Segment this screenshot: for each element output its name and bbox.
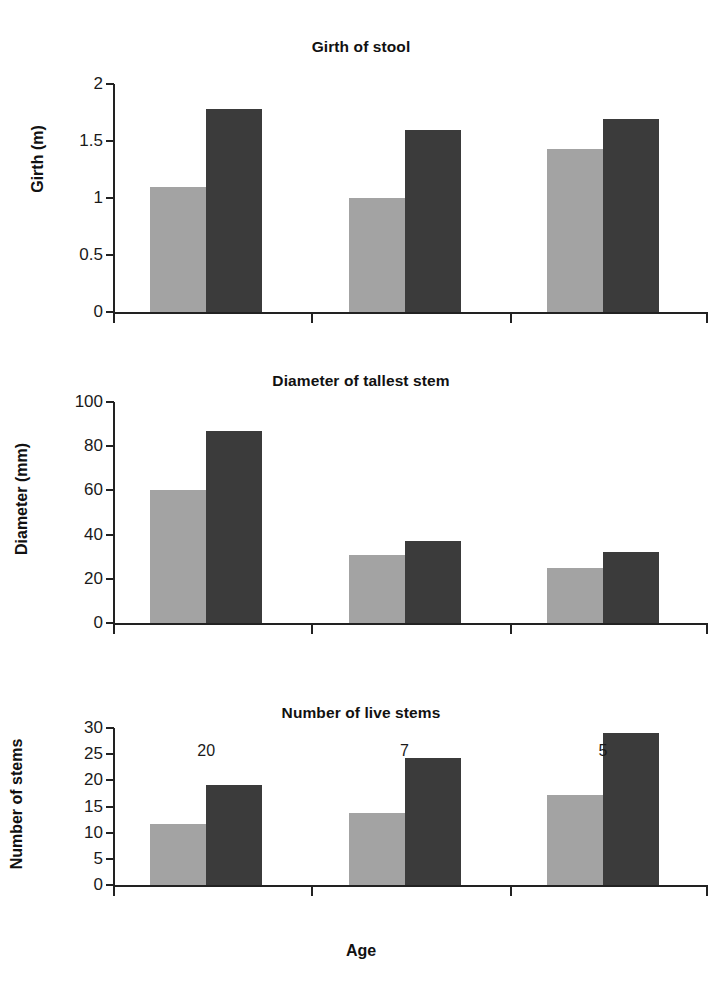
y-axis-tick bbox=[106, 83, 114, 85]
y-axis-tick-label: 25 bbox=[84, 744, 103, 764]
bar-light-20 bbox=[150, 490, 206, 623]
y-axis-tick bbox=[106, 753, 114, 755]
bar-dark-20 bbox=[206, 431, 262, 623]
x-axis-tick bbox=[113, 886, 115, 896]
y-axis-tick-label: 1.5 bbox=[79, 131, 103, 151]
bar-light-20 bbox=[150, 187, 206, 312]
y-axis-tick-label: 100 bbox=[75, 392, 103, 412]
y-axis-label: Number of stems bbox=[8, 704, 26, 904]
y-axis-tick bbox=[106, 832, 114, 834]
bar-dark-5 bbox=[603, 552, 659, 623]
y-axis-tick bbox=[106, 578, 114, 580]
bar-light-7 bbox=[349, 198, 405, 312]
x-axis-tick bbox=[510, 313, 512, 323]
y-axis-tick-label: 1 bbox=[94, 188, 103, 208]
x-axis-tick bbox=[706, 886, 708, 896]
y-axis-tick bbox=[106, 489, 114, 491]
chart-title: Girth of stool bbox=[0, 38, 722, 56]
y-axis-tick-label: 5 bbox=[94, 849, 103, 869]
bar-light-20 bbox=[150, 824, 206, 885]
y-axis-tick-label: 30 bbox=[84, 718, 103, 738]
bar-dark-20 bbox=[206, 109, 262, 312]
chart-title: Diameter of tallest stem bbox=[0, 372, 722, 390]
bar-dark-7 bbox=[405, 130, 461, 312]
x-axis-tick bbox=[706, 313, 708, 323]
y-axis-tick bbox=[106, 401, 114, 403]
x-axis-tick bbox=[113, 313, 115, 323]
y-axis-tick bbox=[106, 534, 114, 536]
y-axis-label: Diameter (mm) bbox=[13, 404, 31, 594]
bar-dark-20 bbox=[206, 785, 262, 885]
figure-panel-stack: Girth of stool Girth (m) 00.511.52 Diame… bbox=[0, 0, 722, 1003]
x-axis-tick-label: 7 bbox=[400, 742, 409, 760]
bar-light-5 bbox=[547, 149, 603, 312]
x-axis-tick-label: 5 bbox=[598, 742, 607, 760]
y-axis-tick bbox=[106, 254, 114, 256]
chart-panel-number-of-live-stems: Number of live stems Number of stems 051… bbox=[0, 670, 722, 1003]
y-axis-tick-label: 2 bbox=[94, 74, 103, 94]
plot-area: 0510152025302075 bbox=[113, 728, 708, 885]
bar-dark-5 bbox=[603, 119, 659, 312]
bar-dark-5 bbox=[603, 733, 659, 885]
x-axis-tick bbox=[113, 624, 115, 634]
chart-panel-diameter-of-tallest-stem: Diameter of tallest stem Diameter (mm) 0… bbox=[0, 340, 722, 670]
bar-dark-7 bbox=[405, 541, 461, 623]
bar-light-7 bbox=[349, 555, 405, 624]
bar-dark-7 bbox=[405, 758, 461, 885]
y-axis-tick-label: 0.5 bbox=[79, 245, 103, 265]
chart-title: Number of live stems bbox=[0, 704, 722, 722]
y-axis-tick-label: 0 bbox=[94, 613, 103, 633]
y-axis-line bbox=[113, 402, 115, 623]
y-axis-tick-label: 40 bbox=[84, 525, 103, 545]
y-axis-tick bbox=[106, 445, 114, 447]
x-axis-tick bbox=[510, 886, 512, 896]
bar-light-5 bbox=[547, 795, 603, 885]
y-axis-tick-label: 60 bbox=[84, 480, 103, 500]
plot-area: 020406080100 bbox=[113, 402, 708, 623]
chart-panel-girth-of-stool: Girth of stool Girth (m) 00.511.52 bbox=[0, 0, 722, 340]
x-axis-tick bbox=[706, 624, 708, 634]
y-axis-tick-label: 20 bbox=[84, 569, 103, 589]
x-axis-tick bbox=[311, 313, 313, 323]
y-axis-tick bbox=[106, 858, 114, 860]
plot-area: 00.511.52 bbox=[113, 84, 708, 312]
x-axis-line bbox=[113, 885, 708, 887]
y-axis-tick-label: 10 bbox=[84, 823, 103, 843]
y-axis-tick bbox=[106, 779, 114, 781]
y-axis-tick-label: 20 bbox=[84, 770, 103, 790]
y-axis-tick-label: 80 bbox=[84, 436, 103, 456]
bar-light-5 bbox=[547, 568, 603, 623]
x-axis-tick bbox=[510, 624, 512, 634]
y-axis-label: Girth (m) bbox=[29, 79, 47, 239]
x-axis-tick bbox=[311, 886, 313, 896]
y-axis-tick-label: 15 bbox=[84, 797, 103, 817]
x-axis-line bbox=[113, 623, 708, 625]
y-axis-tick bbox=[106, 140, 114, 142]
x-axis-label: Age bbox=[0, 942, 722, 960]
y-axis-tick bbox=[106, 806, 114, 808]
y-axis-tick-label: 0 bbox=[94, 875, 103, 895]
x-axis-tick bbox=[311, 624, 313, 634]
y-axis-tick-label: 0 bbox=[94, 302, 103, 322]
y-axis-tick bbox=[106, 727, 114, 729]
x-axis-line bbox=[113, 312, 708, 314]
bar-light-7 bbox=[349, 813, 405, 885]
x-axis-tick-label: 20 bbox=[197, 742, 215, 760]
y-axis-tick bbox=[106, 197, 114, 199]
